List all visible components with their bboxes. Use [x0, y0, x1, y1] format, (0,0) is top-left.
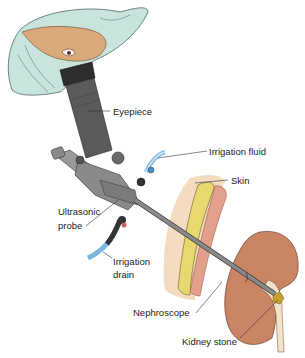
nephroscope-diagram — [0, 0, 305, 358]
label-irrigation-fluid: Irrigation fluid — [209, 146, 266, 157]
label-ultrasonic-probe-line1: Ultrasonic — [58, 206, 100, 217]
scope-handle — [51, 146, 138, 210]
eyepiece — [60, 62, 112, 158]
irrigation-fluid-tube — [137, 152, 165, 186]
label-eyepiece: Eyepiece — [113, 106, 152, 117]
label-skin: Skin — [231, 175, 249, 186]
label-kidney-stone: Kidney stone — [182, 336, 237, 347]
label-irrigation-drain-line1: Irrigation — [113, 256, 150, 267]
irrigation-drain-tube — [88, 216, 127, 258]
label-ultrasonic-probe-line2: probe — [58, 220, 82, 231]
kidney — [225, 231, 298, 352]
label-nephroscope: Nephroscope — [133, 307, 190, 318]
label-irrigation-drain-line2: drain — [113, 269, 134, 280]
